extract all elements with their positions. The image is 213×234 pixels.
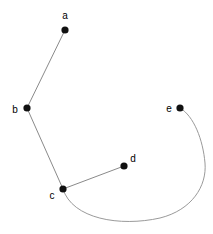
- edge-b-c: [27, 108, 63, 189]
- node-dot-d[interactable]: [120, 162, 127, 169]
- node-label-e: e: [166, 103, 172, 114]
- node-label-d: d: [130, 153, 136, 164]
- node-dot-a[interactable]: [61, 26, 68, 33]
- edge-a-b: [27, 30, 65, 108]
- graph-canvas: a b c d e: [0, 0, 213, 234]
- node-d[interactable]: d: [120, 153, 135, 170]
- node-label-a: a: [62, 10, 68, 21]
- edge-c-d: [63, 166, 124, 189]
- edge-c-e: [63, 108, 205, 221]
- node-dot-c[interactable]: [59, 185, 66, 192]
- nodes-layer: a b c d e: [12, 10, 183, 201]
- node-e[interactable]: e: [166, 103, 183, 114]
- node-label-b: b: [12, 104, 18, 115]
- node-a[interactable]: a: [61, 10, 68, 34]
- node-dot-e[interactable]: [176, 104, 183, 111]
- node-b[interactable]: b: [12, 104, 30, 115]
- node-label-c: c: [50, 190, 55, 201]
- node-dot-b[interactable]: [23, 104, 30, 111]
